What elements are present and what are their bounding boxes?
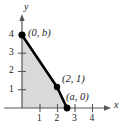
y-axis-label: y — [24, 2, 28, 12]
x-tick-label-2: 2 — [55, 114, 60, 124]
y-axis-arrow — [19, 14, 24, 21]
point-x-intercept — [64, 105, 71, 112]
coordinate-plane-svg — [0, 0, 123, 131]
y-tick-label-2: 2 — [9, 66, 14, 76]
y-tick-label-3: 3 — [9, 48, 14, 58]
point-y-intercept — [19, 32, 26, 39]
x-axis-arrow — [104, 105, 111, 110]
point-label-interior: (2, 1) — [62, 74, 85, 85]
point-label-y-intercept: (0, b) — [28, 28, 51, 39]
x-axis-label: x — [114, 100, 118, 110]
point-interior — [54, 84, 60, 90]
graph-figure: y x 4 3 2 1 1 2 3 4 (0, b) (2, 1) (a, 0) — [0, 0, 123, 131]
y-tick-label-1: 1 — [9, 85, 14, 95]
x-tick-label-4: 4 — [90, 114, 95, 124]
y-tick-label-4: 4 — [9, 30, 14, 40]
x-tick-label-3: 3 — [72, 114, 77, 124]
point-label-x-intercept: (a, 0) — [66, 92, 89, 103]
x-tick-label-1: 1 — [37, 114, 42, 124]
